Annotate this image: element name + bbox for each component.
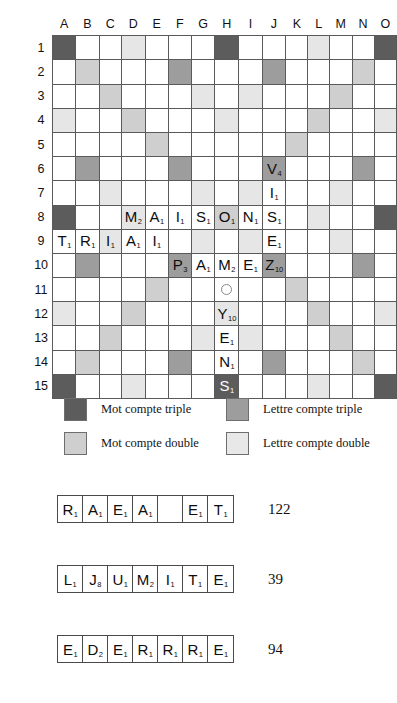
board-square-G10[interactable]: A1 xyxy=(191,253,214,277)
board-square-N2[interactable] xyxy=(352,60,374,84)
board-square-M6[interactable] xyxy=(330,157,352,181)
board-square-A4[interactable] xyxy=(53,108,76,132)
board-square-K13[interactable] xyxy=(286,326,308,350)
rack-tile[interactable]: J8 xyxy=(83,566,108,592)
board-square-F6[interactable] xyxy=(168,157,191,181)
board-square-N9[interactable] xyxy=(352,229,374,253)
board-square-C6[interactable] xyxy=(99,157,121,181)
board-square-I8[interactable]: N1 xyxy=(239,205,262,229)
board-square-G2[interactable] xyxy=(191,60,214,84)
board-square-N4[interactable] xyxy=(352,108,374,132)
board-square-D12[interactable] xyxy=(121,302,145,326)
board-square-A1[interactable] xyxy=(53,36,76,60)
board-square-H6[interactable] xyxy=(215,157,239,181)
board-square-B12[interactable] xyxy=(76,302,99,326)
board-square-M2[interactable] xyxy=(330,60,352,84)
board-square-J14[interactable] xyxy=(262,350,286,374)
board-square-K2[interactable] xyxy=(286,60,308,84)
board-square-A6[interactable] xyxy=(53,157,76,181)
board-square-D4[interactable] xyxy=(121,108,145,132)
board-square-I12[interactable] xyxy=(239,302,262,326)
board-tile[interactable]: A1 xyxy=(126,233,140,248)
board-square-J10[interactable]: Z10 xyxy=(262,253,286,277)
board-square-K7[interactable] xyxy=(286,181,308,205)
board-square-I9[interactable] xyxy=(239,229,262,253)
board-square-K8[interactable] xyxy=(286,205,308,229)
board-square-I2[interactable] xyxy=(239,60,262,84)
board-square-C10[interactable] xyxy=(99,253,121,277)
board-square-K11[interactable] xyxy=(286,278,308,302)
board-tile[interactable]: Z10 xyxy=(265,257,283,272)
board-square-G11[interactable] xyxy=(191,278,214,302)
board-tile[interactable]: R1 xyxy=(80,233,95,248)
rack-tile[interactable]: E1 xyxy=(58,636,83,662)
board-tile[interactable]: O1 xyxy=(219,209,235,224)
board-square-A8[interactable] xyxy=(53,205,76,229)
board-square-F3[interactable] xyxy=(168,84,191,108)
board-square-O12[interactable] xyxy=(374,302,396,326)
board-square-O4[interactable] xyxy=(374,108,396,132)
board-square-E7[interactable] xyxy=(145,181,168,205)
board-square-F11[interactable] xyxy=(168,278,191,302)
rack-tile[interactable]: T1 xyxy=(183,566,208,592)
board-square-I7[interactable] xyxy=(239,181,262,205)
board-square-A5[interactable] xyxy=(53,132,76,156)
board-square-B13[interactable] xyxy=(76,326,99,350)
board-square-C5[interactable] xyxy=(99,132,121,156)
board-square-B3[interactable] xyxy=(76,84,99,108)
board-square-K4[interactable] xyxy=(286,108,308,132)
board-square-F9[interactable] xyxy=(168,229,191,253)
board-square-J5[interactable] xyxy=(262,132,286,156)
board-square-B1[interactable] xyxy=(76,36,99,60)
board-square-M4[interactable] xyxy=(330,108,352,132)
board-square-L9[interactable] xyxy=(308,229,330,253)
board-square-F12[interactable] xyxy=(168,302,191,326)
board-square-O11[interactable] xyxy=(374,278,396,302)
tile-rack[interactable]: L1J8U1M2I1T1E1 xyxy=(57,565,234,593)
board-square-H7[interactable] xyxy=(215,181,239,205)
board-square-M12[interactable] xyxy=(330,302,352,326)
board-square-O3[interactable] xyxy=(374,84,396,108)
board-square-O8[interactable] xyxy=(374,205,396,229)
board-square-E12[interactable] xyxy=(145,302,168,326)
board-square-L7[interactable] xyxy=(308,181,330,205)
board-square-M11[interactable] xyxy=(330,278,352,302)
board-square-D5[interactable] xyxy=(121,132,145,156)
board-square-A10[interactable] xyxy=(53,253,76,277)
board-square-K5[interactable] xyxy=(286,132,308,156)
board-square-C8[interactable] xyxy=(99,205,121,229)
board-square-E1[interactable] xyxy=(145,36,168,60)
board-square-E11[interactable] xyxy=(145,278,168,302)
board-square-F8[interactable]: I1 xyxy=(168,205,191,229)
board-square-H4[interactable] xyxy=(215,108,239,132)
board-square-O9[interactable] xyxy=(374,229,396,253)
board-square-A12[interactable] xyxy=(53,302,76,326)
board-square-F13[interactable] xyxy=(168,326,191,350)
rack-tile[interactable]: T1 xyxy=(208,496,233,522)
board-square-J11[interactable] xyxy=(262,278,286,302)
board-square-J8[interactable]: S1 xyxy=(262,205,286,229)
board-tile[interactable]: V4 xyxy=(267,161,281,176)
board-square-E8[interactable]: A1 xyxy=(145,205,168,229)
board-square-B5[interactable] xyxy=(76,132,99,156)
board-square-D13[interactable] xyxy=(121,326,145,350)
board-square-I1[interactable] xyxy=(239,36,262,60)
board-square-B2[interactable] xyxy=(76,60,99,84)
board-tile[interactable]: E1 xyxy=(220,330,234,345)
board-square-M7[interactable] xyxy=(330,181,352,205)
board-tile[interactable]: Y10 xyxy=(218,306,236,321)
board-square-J9[interactable]: E1 xyxy=(262,229,286,253)
board-square-M13[interactable] xyxy=(330,326,352,350)
board-square-O2[interactable] xyxy=(374,60,396,84)
board-square-L3[interactable] xyxy=(308,84,330,108)
board-tile[interactable]: N1 xyxy=(219,354,234,369)
board-square-G13[interactable] xyxy=(191,326,214,350)
board-square-O14[interactable] xyxy=(374,350,396,374)
rack-tile[interactable]: L1 xyxy=(58,566,83,592)
board-square-L13[interactable] xyxy=(308,326,330,350)
board-square-M5[interactable] xyxy=(330,132,352,156)
board-square-C7[interactable] xyxy=(99,181,121,205)
rack-tile[interactable]: R1 xyxy=(183,636,208,662)
board-square-E4[interactable] xyxy=(145,108,168,132)
board-square-N3[interactable] xyxy=(352,84,374,108)
